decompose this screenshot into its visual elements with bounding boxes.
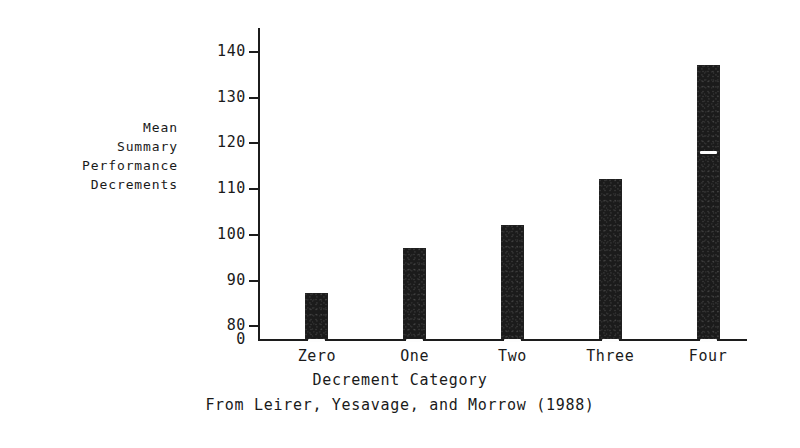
bar	[403, 248, 426, 339]
x-axis-title: Decrement Category	[0, 371, 800, 389]
x-axis-tick-label: Three	[586, 349, 634, 364]
bar-white-stripe	[700, 339, 717, 342]
y-axis-title-line-2: Summary	[30, 137, 178, 156]
y-axis-title-line-1: Mean	[30, 118, 178, 137]
y-axis-tick-mark	[249, 234, 258, 236]
bar	[305, 293, 328, 339]
y-axis-tick-label: 110	[217, 181, 246, 196]
y-axis-tick-label: 120	[217, 135, 246, 150]
y-axis-tick-label: 140	[217, 43, 246, 58]
bar-white-stripe	[308, 339, 325, 342]
x-axis-line	[258, 339, 747, 341]
y-axis-tick-mark	[249, 97, 258, 99]
x-axis-tick-label: Zero	[298, 349, 337, 364]
y-axis-title-line-4: Decrements	[30, 175, 178, 194]
y-axis-origin-label: 0	[236, 332, 246, 347]
bar-white-stripe	[406, 339, 423, 342]
bar-chart-figure: Mean Summary Performance Decrements 8090…	[0, 0, 800, 448]
bar-white-stripe	[504, 339, 521, 342]
plot-area: 8090100110120130140 0 ZeroOneTwoThreeFou…	[258, 28, 748, 341]
x-axis-tick-label: Four	[689, 349, 728, 364]
y-axis-tick-mark	[249, 51, 258, 53]
y-axis-tick-mark	[249, 188, 258, 190]
bar-white-stripe	[602, 339, 619, 342]
y-axis-title: Mean Summary Performance Decrements	[30, 118, 178, 194]
x-axis-tick-label: One	[400, 349, 429, 364]
y-axis-tick-mark	[249, 280, 258, 282]
y-axis-tick-label: 90	[227, 272, 246, 287]
y-axis-line	[258, 28, 260, 341]
bar	[697, 65, 720, 339]
bar	[599, 179, 622, 339]
y-axis-tick-label: 130	[217, 89, 246, 104]
y-axis-title-line-3: Performance	[30, 156, 178, 175]
figure-caption: From Leirer, Yesavage, and Morrow (1988)	[0, 396, 800, 414]
x-axis-tick-label: Two	[498, 349, 527, 364]
y-axis-tick-label: 100	[217, 226, 246, 241]
bar-white-stripe	[700, 151, 717, 154]
y-axis-tick-mark	[249, 142, 258, 144]
bar	[501, 225, 524, 339]
y-axis-tick-mark	[249, 325, 258, 327]
